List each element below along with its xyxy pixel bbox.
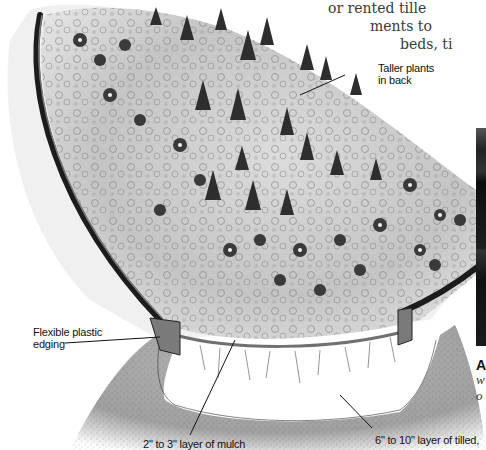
soil-texture: [70, 325, 486, 450]
body-text-line-2: ments to: [370, 17, 432, 35]
photo-caption-line-1: w: [476, 372, 485, 388]
photo-caption-bold: A: [476, 357, 486, 373]
body-text-line-3: beds, ti: [400, 35, 452, 53]
label-soil: 6" to 10" layer of tilled,: [375, 434, 479, 446]
body-text-line-1: or rented tille: [328, 0, 426, 17]
label-mulch: 2" to 3" layer of mulch: [143, 438, 245, 450]
label-taller-plants: Taller plants in back: [378, 62, 434, 86]
photo-cropped: [476, 128, 486, 346]
edging-right-cut: [398, 308, 412, 345]
tilled-layer-outline: [158, 340, 436, 421]
book-page: or rented tille ments to beds, ti Taller…: [0, 0, 486, 450]
photo-caption-line-2: o: [476, 388, 483, 404]
label-edging: Flexible plastic edging: [33, 326, 102, 350]
